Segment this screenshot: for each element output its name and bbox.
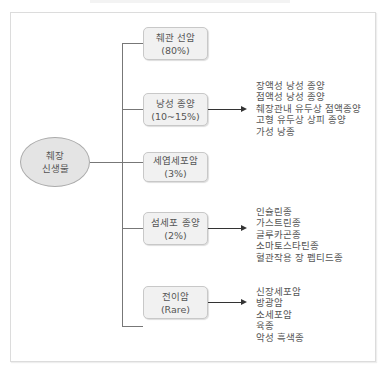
branch-node-acinar-cell-carcinoma: 세엽세포암 (3%) [143,152,208,182]
list-item: 인슐린종 [256,206,343,217]
branch-share: (3%) [164,167,186,180]
list-item: 소세포암 [256,309,304,320]
branch-name: 세엽세포암 [153,154,198,167]
branch-share: (80%) [161,44,190,57]
subtype-list-cystic: 장액성 낭성 종양 점액성 낭성 종양 췌장관내 유두상 점액종양 고형 유두상… [256,80,361,137]
list-item: 육종 [256,320,304,331]
subtype-list-islet: 인슐린종 가스트린종 글루카곤종 소마토스타틴종 혈관작용 장 펩티드종 [256,206,343,263]
list-item: 악성 흑색종 [256,332,304,343]
branch-node-ductal-adenocarcinoma: 췌관 선암 (80%) [143,27,208,60]
branch-connector-1 [122,43,143,44]
cropped-title-remnant [90,0,290,3]
branch-node-islet-cell-tumor: 섬세포 종양 (2%) [143,212,208,245]
list-item: 고형 유두상 상피 종양 [256,114,361,125]
trunk-line [122,43,123,327]
list-item: 췌장관내 유두상 점액종양 [256,103,361,114]
arrow-icon [208,302,245,303]
branch-name: 전이암 [162,290,189,303]
list-item: 가성 낭종 [256,126,361,137]
branch-share: (2%) [164,229,186,242]
branch-connector-5 [122,326,143,327]
root-connector [90,162,143,163]
arrow-icon [208,228,245,229]
list-item: 글루카곤종 [256,229,343,240]
branch-name: 췌관 선암 [156,31,195,44]
root-label-line2: 신생물 [42,162,69,175]
list-item: 장액성 낭성 종양 [256,80,361,91]
list-item: 방광암 [256,297,304,308]
arrow-icon [208,109,245,110]
branch-share: (10~15%) [151,110,200,123]
list-item: 혈관작용 장 펩티드종 [256,252,343,263]
branch-node-metastatic-cancer: 전이암 (Rare) [143,286,208,319]
list-item: 소마토스타틴종 [256,240,343,251]
list-item: 신장세포암 [256,286,304,297]
branch-name: 섬세포 종양 [151,216,199,229]
root-node-pancreatic-neoplasm: 췌장 신생물 [20,137,90,187]
branch-share: (Rare) [161,303,190,316]
branch-name: 낭성 종양 [156,97,195,110]
list-item: 점액성 낭성 종양 [256,91,361,102]
root-label-line1: 췌장 [46,149,64,162]
branch-connector-4 [122,228,143,229]
branch-node-cystic-tumor: 낭성 종양 (10~15%) [143,93,208,126]
subtype-list-metastatic: 신장세포암 방광암 소세포암 육종 악성 흑색종 [256,286,304,343]
branch-connector-2 [122,109,143,110]
list-item: 가스트린종 [256,217,343,228]
